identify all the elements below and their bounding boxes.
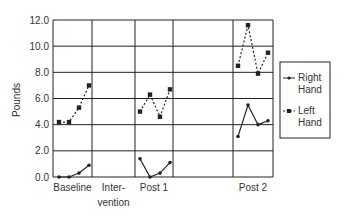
legend-square-marker-icon (287, 109, 291, 113)
circle-marker-icon (158, 171, 162, 175)
series-line (59, 165, 89, 177)
square-marker-icon (256, 71, 260, 75)
circle-marker-icon (256, 123, 260, 127)
series-line (59, 85, 89, 122)
legend-label-right-line1: Right (298, 72, 322, 83)
circle-marker-icon (87, 163, 91, 167)
y-axis-label: Pounds (11, 83, 22, 117)
svg-text:Right: Right (298, 72, 322, 83)
legend-label-right-line2: Hand (298, 84, 322, 95)
y-tick-label: 8.0 (35, 67, 49, 78)
series-right-hand (57, 103, 270, 179)
y-tick-label: 10.0 (30, 41, 50, 52)
square-marker-icon (57, 120, 61, 124)
square-marker-icon (138, 109, 142, 113)
legend-label-left-line2: Hand (298, 117, 322, 128)
circle-marker-icon (138, 157, 142, 161)
x-axis-phase-labels: BaselineInter-ventionPost 1Post 2 (53, 182, 267, 208)
legend-label-left-line1: Left (298, 105, 315, 116)
y-tick-label: 6.0 (35, 93, 49, 104)
circle-marker-icon (77, 171, 81, 175)
line-chart: 0.02.04.06.08.010.012.0 Pounds BaselineI… (0, 0, 348, 214)
legend: Right Hand Left Hand (280, 62, 330, 138)
circle-marker-icon (57, 175, 61, 179)
x-phase-label: Post 2 (239, 182, 268, 193)
y-tick-label: 2.0 (35, 145, 49, 156)
series-line (140, 89, 170, 116)
grid-lines (53, 20, 273, 177)
y-axis-ticks: 0.02.04.06.08.010.012.0 (30, 15, 50, 183)
square-marker-icon (67, 120, 71, 124)
svg-text:Hand: Hand (298, 117, 322, 128)
square-marker-icon (266, 51, 270, 55)
square-marker-icon (236, 64, 240, 68)
legend-circle-marker-icon (287, 76, 290, 79)
square-marker-icon (87, 83, 91, 87)
circle-marker-icon (236, 135, 240, 139)
square-marker-icon (246, 23, 250, 27)
y-tick-label: 0.0 (35, 172, 49, 183)
svg-text:Hand: Hand (298, 84, 322, 95)
circle-marker-icon (67, 175, 71, 179)
series-line (238, 25, 268, 73)
circle-marker-icon (168, 161, 172, 165)
square-marker-icon (168, 87, 172, 91)
y-tick-label: 12.0 (30, 15, 50, 26)
y-tick-label: 4.0 (35, 119, 49, 130)
x-phase-label: Baseline (53, 182, 92, 193)
series-line (140, 159, 170, 177)
square-marker-icon (148, 92, 152, 96)
circle-marker-icon (148, 175, 152, 179)
square-marker-icon (158, 115, 162, 119)
circle-marker-icon (266, 119, 270, 123)
circle-marker-icon (246, 103, 250, 107)
x-phase-label: Inter- (102, 182, 125, 193)
x-phase-label: vention (97, 197, 129, 208)
series-left-hand (57, 23, 270, 124)
square-marker-icon (77, 105, 81, 109)
svg-text:Left: Left (298, 105, 315, 116)
x-phase-label: Post 1 (140, 182, 169, 193)
series-line (238, 105, 268, 136)
